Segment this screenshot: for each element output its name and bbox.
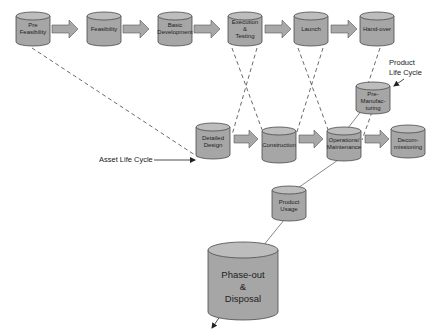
cylinder-product-usage (272, 186, 306, 221)
dashed-line-handover-to-premanufacturing (368, 48, 380, 84)
block-arrow-4 (265, 20, 291, 38)
cylinder-launch (294, 12, 328, 46)
dashed-line-execution-left (232, 48, 264, 135)
cylinders (16, 12, 425, 320)
block-arrow-construction-to-operations (299, 130, 323, 148)
cylinder-pre-manufacturing (356, 82, 390, 114)
block-arrow-operations-to-decommissioning (365, 130, 389, 148)
cylinder-operations-maintenance (327, 127, 361, 161)
cylinder-decommissioning (391, 125, 425, 158)
dashed-line-prefeasibility-to-detailed-design (32, 48, 198, 157)
line-product-usage-to-phaseout (263, 220, 284, 246)
dashed-line-execution-right (232, 48, 257, 135)
product-life-cycle-arrow (394, 79, 404, 86)
block-arrow-design-to-construction (234, 130, 258, 148)
cylinder-feasibility (87, 12, 121, 46)
cylinder-basic-development (158, 12, 192, 46)
cylinder-construction (262, 127, 296, 163)
block-arrow-2 (123, 20, 149, 38)
block-arrow-5 (331, 20, 357, 38)
cylinder-execution-testing (228, 12, 262, 46)
dashed-line-launch-left (298, 48, 330, 135)
cylinder-detailed-design (196, 123, 230, 159)
cylinder-phase-out-disposal (208, 242, 278, 320)
product-life-cycle-label: Product Life Cycle (389, 58, 422, 78)
cylinder-hand-over (360, 12, 394, 46)
dashed-line-launch-right (296, 48, 323, 135)
cylinder-pre-feasibility (16, 12, 50, 46)
asset-life-cycle-label: Asset Life Cycle (99, 155, 153, 165)
block-arrow-3 (194, 20, 220, 38)
line-operations-to-product-usage (295, 160, 338, 190)
block-arrows-middle (234, 130, 389, 148)
lifecycle-diagram (0, 0, 441, 336)
block-arrow-1 (52, 20, 78, 38)
